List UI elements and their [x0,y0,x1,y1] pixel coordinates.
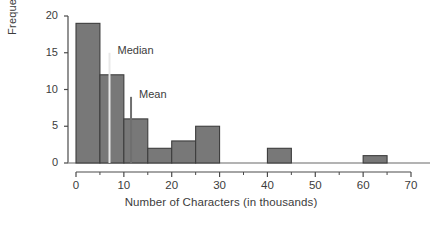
x-tick-label-0: 0 [61,179,91,191]
y-tick-label-20: 20 [32,9,58,21]
y-tick-label-5: 5 [32,119,58,131]
mean-annotation-label: Mean [139,88,167,100]
median-annotation-label: Median [118,44,154,56]
histogram-bar [172,141,196,163]
histogram-bar [196,126,220,163]
x-tick-label-10: 10 [109,179,139,191]
x-tick-label-70: 70 [396,179,426,191]
y-tick-label-0: 0 [32,156,58,168]
histogram-bar [124,119,148,163]
histogram-bar [363,156,387,163]
x-tick-label-40: 40 [252,179,282,191]
histogram-bar [76,23,100,163]
histogram-bar [148,148,172,163]
x-tick-label-50: 50 [300,179,330,191]
plot-area [0,0,442,227]
histogram-bar [267,148,291,163]
y-tick-label-10: 10 [32,83,58,95]
x-tick-label-60: 60 [348,179,378,191]
histogram-figure: Frequency Number of Characters (in thous… [0,0,442,227]
histogram-bar [100,75,124,163]
x-tick-label-20: 20 [157,179,187,191]
x-tick-label-30: 30 [205,179,235,191]
y-tick-label-15: 15 [32,46,58,58]
